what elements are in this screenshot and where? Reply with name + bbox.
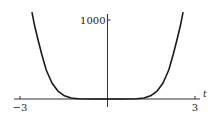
x-tick-label: −3 <box>13 102 28 113</box>
x-tick-label: 3 <box>192 102 198 113</box>
y-tick-label: 1000 <box>80 15 105 26</box>
chart: −331000 t <box>0 0 216 117</box>
x-axis-label: t <box>203 89 207 99</box>
